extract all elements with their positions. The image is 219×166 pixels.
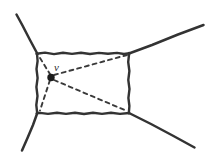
- upper-left-leg: [17, 15, 38, 55]
- vertex-to-bottom-right-dashed: [54, 80, 127, 111]
- lower-left-leg: [22, 113, 38, 151]
- vertex-to-top-left-dashed: [39, 56, 51, 75]
- dashed-lines-group: [39, 55, 127, 111]
- diagram-canvas: v: [0, 0, 219, 166]
- vertex-label: v: [54, 61, 59, 73]
- box-outline-group: [36, 53, 129, 114]
- box-top-edge: [37, 53, 130, 55]
- box-bottom-edge: [37, 113, 130, 114]
- external-legs-group: [17, 15, 204, 151]
- upper-right-leg: [129, 25, 204, 54]
- lower-right-leg: [129, 113, 195, 148]
- vertex-to-bottom-left-dashed: [40, 80, 50, 111]
- box-right-edge: [128, 53, 129, 113]
- vertex-to-top-right-dashed: [54, 55, 127, 75]
- box-diagram: v: [0, 0, 219, 166]
- interaction-vertex-dot: [47, 74, 54, 81]
- box-left-edge: [36, 53, 37, 113]
